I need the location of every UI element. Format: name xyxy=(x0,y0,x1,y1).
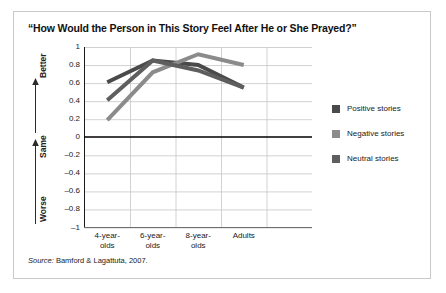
source-prefix: Source: xyxy=(28,256,54,265)
y-tick-label: 0 xyxy=(54,133,80,141)
legend-item-label: Negative stories xyxy=(347,129,404,138)
chart-legend: Positive storiesNegative storiesNeutral … xyxy=(332,96,432,171)
axis-label-worse: Worse xyxy=(38,196,48,222)
data-series-group xyxy=(107,54,244,120)
source-note: Source: Bamford & Lagattuta, 2007. xyxy=(28,256,148,265)
axis-label-same: Same xyxy=(38,135,48,158)
y-tick-label: –0.2 xyxy=(54,151,80,159)
legend-swatch-icon xyxy=(332,130,340,138)
y-tick-label: 0.6 xyxy=(54,79,80,87)
source-text: Bamford & Lagattuta, 2007. xyxy=(54,256,148,265)
legend-swatch-icon xyxy=(332,105,340,113)
y-tick-label: –0.4 xyxy=(54,169,80,177)
x-tick-label: Adults xyxy=(214,231,274,241)
figure-container: “How Would the Person in This Story Feel… xyxy=(0,0,446,293)
y-tick-label: 0.8 xyxy=(54,61,80,69)
legend-item-label: Positive stories xyxy=(347,104,401,113)
y-tick-label: 0.4 xyxy=(54,97,80,105)
y-tick-label: 0.2 xyxy=(54,115,80,123)
legend-item[interactable]: Positive stories xyxy=(332,96,432,121)
y-tick-label: 1 xyxy=(54,43,80,51)
y-tick-label: –0.6 xyxy=(54,187,80,195)
legend-item-label: Neutral stories xyxy=(347,154,399,163)
legend-item[interactable]: Neutral stories xyxy=(332,146,432,171)
legend-swatch-icon xyxy=(332,155,340,163)
axis-label-better: Better xyxy=(38,53,48,78)
y-tick-label: –0.8 xyxy=(54,205,80,213)
legend-item[interactable]: Negative stories xyxy=(332,121,432,146)
y-tick-label: –1 xyxy=(54,224,80,232)
series-line xyxy=(107,61,244,101)
x-tick-label-line2: olds xyxy=(168,241,228,251)
x-tick-label-line1: Adults xyxy=(214,231,274,241)
